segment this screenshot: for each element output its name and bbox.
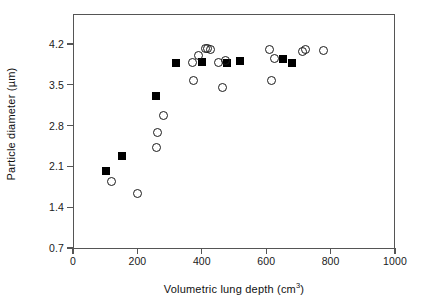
x-axis-tick-label: 0: [48, 256, 98, 267]
y-axis-title-text: Particle diameter (µm): [5, 68, 17, 181]
x-axis-tick: [330, 248, 331, 254]
y-axis-title: Particle diameter (µm): [2, 0, 20, 248]
y-axis-tick: [67, 207, 73, 208]
x-axis-tick: [266, 248, 267, 254]
x-axis-tick-label: 800: [306, 256, 356, 267]
y-axis-tick-label: 0.7: [24, 243, 64, 254]
x-axis-title-paren: ): [300, 283, 304, 295]
scatter-chart-figure: Particle diameter (µm) 0.71.42.12.83.54.…: [0, 0, 426, 307]
x-axis-tick-label: 400: [177, 256, 227, 267]
x-axis-tick: [137, 248, 138, 254]
y-axis-tick-label: 3.5: [24, 80, 64, 91]
plot-area-frame: [73, 14, 395, 248]
y-axis-tick: [67, 84, 73, 85]
x-axis-title: Volumetric lung depth (cm3): [73, 283, 395, 295]
x-axis-tick-label: 600: [241, 256, 291, 267]
x-axis-tick-label: 200: [112, 256, 162, 267]
y-axis-tick-label: 4.2: [24, 39, 64, 50]
y-axis-tick: [67, 125, 73, 126]
y-axis-tick-label: 2.8: [24, 121, 64, 132]
x-axis-title-text: Volumetric lung depth (cm: [164, 283, 296, 295]
y-axis-tick: [67, 43, 73, 44]
x-axis-tick-label: 1000: [370, 256, 420, 267]
x-axis-tick: [72, 248, 73, 254]
y-axis-tick-label: 1.4: [24, 202, 64, 213]
x-axis-tick: [394, 248, 395, 254]
y-axis-tick: [67, 166, 73, 167]
x-axis-tick: [201, 248, 202, 254]
y-axis-tick-label: 2.1: [24, 161, 64, 172]
x-axis-line: [73, 248, 395, 249]
